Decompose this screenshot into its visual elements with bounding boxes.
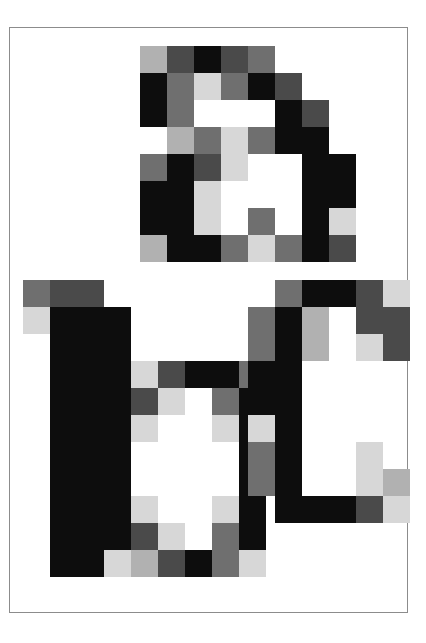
mosaic-tile bbox=[248, 127, 275, 154]
mosaic-tile bbox=[356, 307, 383, 334]
mosaic-tile bbox=[77, 307, 104, 334]
mosaic-tile bbox=[167, 154, 194, 181]
mosaic-tile bbox=[275, 388, 302, 415]
mosaic-tile bbox=[140, 208, 167, 235]
mosaic-tile bbox=[248, 307, 275, 334]
mosaic-tile bbox=[248, 415, 275, 442]
mosaic-tile bbox=[194, 208, 221, 235]
mosaic-tile bbox=[104, 361, 131, 388]
mosaic-tile bbox=[194, 46, 221, 73]
mosaic-tile bbox=[158, 361, 185, 388]
mosaic-tile bbox=[383, 307, 410, 334]
mosaic-tile bbox=[194, 235, 221, 262]
mosaic-tile bbox=[167, 46, 194, 73]
mosaic-tile bbox=[302, 307, 329, 334]
mosaic-tile bbox=[302, 100, 329, 127]
mosaic-tile bbox=[239, 550, 266, 577]
mosaic-tile bbox=[77, 388, 104, 415]
mosaic-tile bbox=[104, 442, 131, 469]
mosaic-tile bbox=[275, 415, 302, 442]
mosaic-tile bbox=[302, 235, 329, 262]
mosaic-tile bbox=[77, 334, 104, 361]
mosaic-tile bbox=[131, 550, 158, 577]
mosaic-tile bbox=[77, 442, 104, 469]
mosaic-tile bbox=[329, 280, 356, 307]
mosaic-tile bbox=[140, 46, 167, 73]
mosaic-tile bbox=[329, 496, 356, 523]
mosaic-tile bbox=[131, 415, 158, 442]
mosaic-tile bbox=[167, 208, 194, 235]
mosaic-tile bbox=[212, 496, 239, 523]
mosaic-tile bbox=[140, 235, 167, 262]
mosaic-tile bbox=[167, 235, 194, 262]
mosaic-tile bbox=[356, 442, 383, 469]
mosaic-tile bbox=[248, 235, 275, 262]
mosaic-tile bbox=[104, 496, 131, 523]
mosaic-tile bbox=[221, 73, 248, 100]
mosaic-tile bbox=[131, 388, 158, 415]
mosaic-tile bbox=[50, 280, 77, 307]
mosaic-tile bbox=[248, 208, 275, 235]
mosaic-tile bbox=[77, 361, 104, 388]
mosaic-tile bbox=[302, 127, 329, 154]
mosaic-tile bbox=[23, 280, 50, 307]
mosaic-tile bbox=[212, 415, 239, 442]
mosaic-tile bbox=[212, 361, 239, 388]
mosaic-tile bbox=[248, 388, 275, 415]
mosaic-tile bbox=[140, 154, 167, 181]
mosaic-tile bbox=[383, 334, 410, 361]
mosaic-tile bbox=[104, 334, 131, 361]
mosaic-tile bbox=[356, 280, 383, 307]
mosaic-tile bbox=[248, 73, 275, 100]
letter-c bbox=[248, 280, 410, 523]
mosaic-tile bbox=[275, 334, 302, 361]
mosaic-tile bbox=[140, 181, 167, 208]
mosaic-tile bbox=[275, 496, 302, 523]
mosaic-tile bbox=[275, 307, 302, 334]
mosaic-tile bbox=[212, 550, 239, 577]
mosaic-tile bbox=[50, 523, 77, 550]
mosaic-tile bbox=[77, 469, 104, 496]
mosaic-tile bbox=[302, 154, 329, 181]
page-canvas bbox=[0, 0, 426, 643]
mosaic-tile bbox=[248, 361, 275, 388]
mosaic-tile bbox=[248, 442, 275, 469]
mosaic-tile bbox=[239, 523, 266, 550]
mosaic-tile bbox=[158, 523, 185, 550]
mosaic-tile bbox=[140, 73, 167, 100]
mosaic-tile bbox=[302, 280, 329, 307]
mosaic-tile bbox=[194, 127, 221, 154]
mosaic-tile bbox=[77, 415, 104, 442]
artwork-frame bbox=[9, 27, 408, 613]
mosaic-tile bbox=[275, 100, 302, 127]
mosaic-tile bbox=[77, 280, 104, 307]
mosaic-tile bbox=[194, 154, 221, 181]
mosaic-tile bbox=[50, 334, 77, 361]
mosaic-tile bbox=[221, 154, 248, 181]
mosaic-tile bbox=[167, 100, 194, 127]
mosaic-tile bbox=[104, 550, 131, 577]
mosaic-tile bbox=[194, 181, 221, 208]
mosaic-tile bbox=[50, 307, 77, 334]
mosaic-tile bbox=[329, 208, 356, 235]
mosaic-tile bbox=[275, 280, 302, 307]
mosaic-tile bbox=[248, 334, 275, 361]
mosaic-tile bbox=[104, 469, 131, 496]
mosaic-tile bbox=[185, 550, 212, 577]
mosaic-tile bbox=[275, 469, 302, 496]
mosaic-tile bbox=[131, 523, 158, 550]
mosaic-tile bbox=[50, 550, 77, 577]
mosaic-tile bbox=[194, 73, 221, 100]
mosaic-tile bbox=[248, 469, 275, 496]
mosaic-tile bbox=[221, 46, 248, 73]
mosaic-tile bbox=[221, 127, 248, 154]
mosaic-tile bbox=[275, 235, 302, 262]
mosaic-tile bbox=[104, 523, 131, 550]
mosaic-tile bbox=[158, 388, 185, 415]
mosaic-tile bbox=[50, 388, 77, 415]
mosaic-tile bbox=[356, 334, 383, 361]
mosaic-tile bbox=[212, 388, 239, 415]
mosaic-tile bbox=[185, 361, 212, 388]
mosaic-tile bbox=[329, 181, 356, 208]
mosaic-tile bbox=[248, 46, 275, 73]
